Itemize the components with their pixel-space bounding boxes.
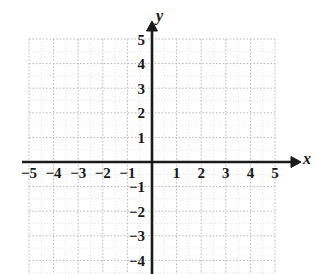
x-tick-label: −2 — [95, 165, 111, 181]
y-tick-label: −1 — [129, 179, 145, 195]
y-tick-label: 2 — [138, 105, 146, 121]
x-tick-label: 2 — [197, 165, 205, 181]
x-tick-label: −5 — [21, 165, 37, 181]
y-tick-label: 4 — [138, 56, 146, 72]
y-axis-label: y — [154, 7, 164, 25]
y-tick-label: −4 — [129, 253, 146, 269]
x-tick-label: −3 — [70, 165, 86, 181]
y-tick-label: −3 — [129, 228, 145, 244]
coordinate-plane-svg: −5−4−3−2−112345 54321−1−2−3−4 x y — [0, 0, 316, 274]
x-axis-label: x — [302, 150, 311, 167]
x-tick-label: 1 — [173, 165, 181, 181]
x-tick-label: 5 — [271, 165, 279, 181]
x-tick-label: −4 — [46, 165, 63, 181]
y-tick-label: 1 — [138, 130, 146, 146]
x-tick-label: 4 — [247, 165, 255, 181]
coordinate-plane-figure: −5−4−3−2−112345 54321−1−2−3−4 x y — [0, 0, 316, 274]
x-tick-label: 3 — [222, 165, 230, 181]
y-tick-label: −2 — [129, 204, 145, 220]
y-tick-label: 3 — [138, 81, 146, 97]
y-tick-label: 5 — [138, 32, 146, 48]
